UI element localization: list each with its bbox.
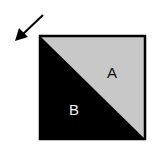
region-a-label: A	[107, 65, 117, 80]
split-square-diagram: A B	[0, 0, 155, 148]
diagram-canvas	[0, 0, 155, 148]
square-shape	[40, 36, 145, 139]
region-b-label: B	[69, 102, 79, 117]
